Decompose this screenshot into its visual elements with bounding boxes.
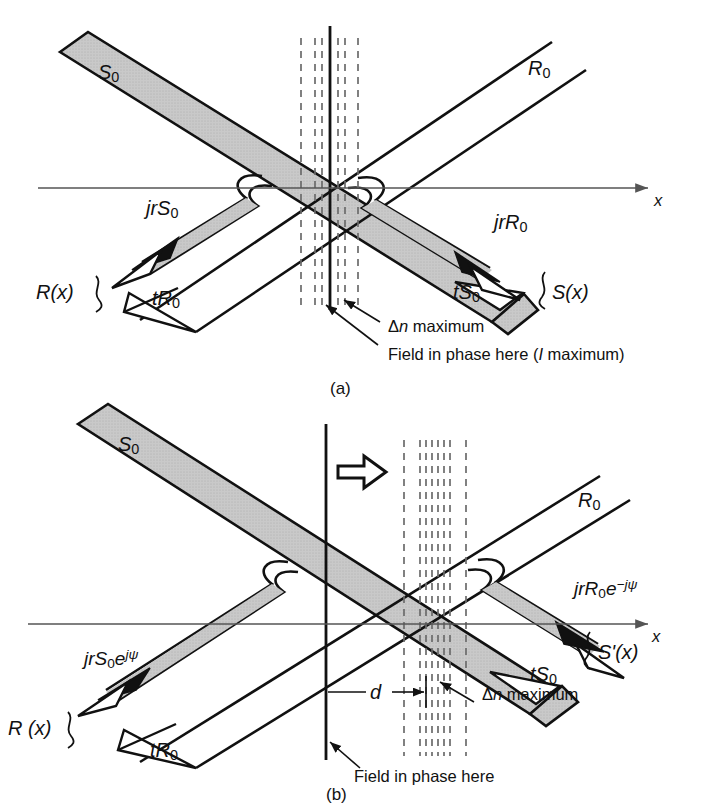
brace-label-rx-b: R (x): [8, 718, 51, 738]
axis-label-x-a: x: [654, 192, 662, 209]
label-jrr0-a: jrR0: [494, 212, 528, 235]
brace-label-sx-a: S(x): [552, 282, 589, 302]
shift-right-arrow: [338, 456, 386, 488]
annotation-leaders-b: [330, 682, 474, 768]
label-jrr0-exp-b: jrR0e−jψ: [574, 578, 637, 600]
beam-jrs0-a: [112, 175, 272, 288]
annotation-dn-maximum-b: Δn maximum: [482, 686, 578, 703]
annotation-field-in-phase-b: Field in phase here: [354, 768, 494, 785]
beam-r0-a: [140, 42, 586, 332]
brace-right-a: [539, 272, 545, 309]
annotation-field-in-phase-a: Field in phase here (I maximum): [388, 346, 625, 363]
label-ts0-a: tS0: [453, 282, 480, 305]
label-r0-a: R0: [528, 58, 550, 81]
brace-left-a: [96, 276, 102, 312]
label-s0-b: S0: [118, 434, 139, 457]
label-tr0-b: tR0: [150, 740, 178, 763]
beam-jrs0-b: [78, 561, 298, 716]
brace-left-b: [68, 712, 74, 748]
label-jrs0-a: jrS0: [146, 198, 178, 221]
panel-caption-a: (a): [330, 380, 351, 397]
annotation-leaders-a: [326, 300, 380, 345]
panel-b: [28, 404, 648, 768]
axis-label-x-b: x: [652, 628, 660, 645]
label-tr0-a: tR0: [152, 288, 180, 311]
label-d-dimension-b: d: [370, 682, 381, 702]
label-r0-b: R0: [578, 490, 600, 513]
figure-canvas: [0, 0, 709, 811]
label-s0-a: S0: [98, 62, 119, 85]
brace-label-sx-b: S'(x): [598, 642, 638, 662]
panel-caption-b: (b): [326, 786, 347, 803]
brace-label-rx-a: R(x): [36, 282, 74, 302]
label-ts0-b: tS0: [530, 664, 557, 687]
annotation-dn-maximum-a: Δn maximum: [388, 318, 484, 335]
label-jrs0-exp-b: jrS0ejψ: [84, 648, 138, 670]
